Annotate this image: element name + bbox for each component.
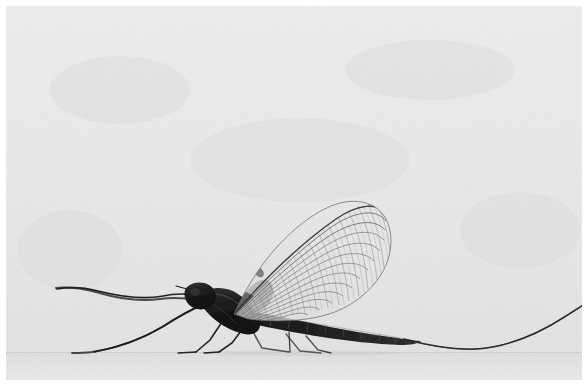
mayfly-photograph (0, 0, 588, 386)
paper-texture-overlay (6, 6, 584, 384)
photograph-container (0, 0, 588, 386)
